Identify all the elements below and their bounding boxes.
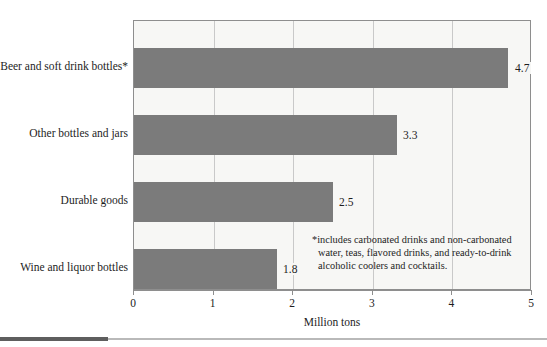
bar-value-label: 4.7 xyxy=(513,62,531,74)
bar-value-label: 2.5 xyxy=(337,196,355,208)
x-axis-title: Million tons xyxy=(133,316,531,328)
bar[interactable] xyxy=(134,182,333,222)
plot-area: 4.7 3.3 2.5 1.8 *includes carbonated dri… xyxy=(133,20,531,290)
x-tick xyxy=(451,290,452,295)
footer-rule-accent xyxy=(0,337,108,341)
category-label-beer-and-soft-drink-bottles: Beer and soft drink bottles* xyxy=(0,60,128,72)
category-label-durable-goods: Durable goods xyxy=(0,194,128,206)
category-label-wine-and-liquor-bottles: Wine and liquor bottles xyxy=(0,261,128,273)
x-tick-label: 2 xyxy=(280,297,304,309)
x-tick xyxy=(372,290,373,295)
x-axis-line xyxy=(133,290,531,291)
category-label-other-bottles-and-jars: Other bottles and jars xyxy=(0,127,128,139)
footnote-line: *includes carbonated drinks and non-carb… xyxy=(312,233,530,246)
bar-value-label: 3.3 xyxy=(401,129,419,141)
bar-value-label: 1.8 xyxy=(281,263,299,275)
footnote-line: water, teas, flavored drinks, and ready-… xyxy=(312,246,530,259)
x-tick-label: 5 xyxy=(519,297,543,309)
x-tick xyxy=(531,290,532,295)
x-tick-label: 1 xyxy=(201,297,225,309)
bar[interactable] xyxy=(134,115,397,155)
x-tick-label: 4 xyxy=(439,297,463,309)
chart-figure: 4.7 3.3 2.5 1.8 *includes carbonated dri… xyxy=(0,0,547,347)
footnote-annotation: *includes carbonated drinks and non-carb… xyxy=(312,233,530,273)
x-tick xyxy=(213,290,214,295)
x-tick xyxy=(292,290,293,295)
x-tick-label: 0 xyxy=(121,297,145,309)
bar[interactable] xyxy=(134,249,277,289)
bar[interactable] xyxy=(134,48,508,88)
footnote-line: alcoholic coolers and cocktails. xyxy=(312,259,530,272)
x-tick-label: 3 xyxy=(360,297,384,309)
x-tick xyxy=(133,290,134,295)
